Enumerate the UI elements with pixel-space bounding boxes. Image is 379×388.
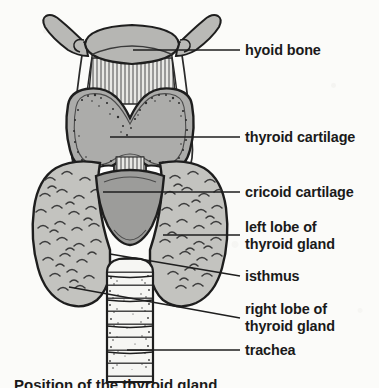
trachea-shape [107, 258, 153, 382]
hyoid-bone-shape [43, 15, 221, 64]
label-trachea-line-1: trachea [245, 342, 296, 358]
label-cricoid-cartilage: cricoid cartilage [245, 184, 354, 201]
label-right-lobe-thyroid-gland-line-1: right lobe of [245, 301, 327, 317]
label-left-lobe-thyroid-gland: left lobe ofthyroid gland [245, 219, 335, 253]
label-hyoid-bone: hyoid bone [245, 42, 321, 59]
label-thyroid-cartilage: thyroid cartilage [245, 129, 355, 146]
label-right-lobe-thyroid-gland-line-2: thyroid gland [245, 318, 335, 335]
label-isthmus-line-1: isthmus [245, 268, 299, 284]
label-hyoid-bone-line-1: hyoid bone [245, 42, 321, 58]
label-cricoid-cartilage-line-1: cricoid cartilage [245, 184, 354, 200]
label-isthmus: isthmus [245, 268, 299, 285]
label-right-lobe-thyroid-gland: right lobe ofthyroid gland [245, 301, 335, 335]
label-left-lobe-thyroid-gland-line-1: left lobe of [245, 219, 317, 235]
label-left-lobe-thyroid-gland-line-2: thyroid gland [245, 236, 335, 253]
label-thyroid-cartilage-line-1: thyroid cartilage [245, 129, 355, 145]
label-trachea: trachea [245, 342, 296, 359]
figure-page: hyoid bonethyroid cartilagecricoid carti… [0, 0, 379, 388]
figure-caption-cropped: Position of the thyroid gland [14, 376, 314, 388]
